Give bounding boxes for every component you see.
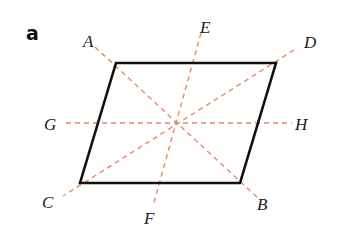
label-C: C	[42, 193, 54, 212]
label-D: D	[303, 33, 317, 52]
label-B: B	[257, 195, 268, 214]
line-EF	[153, 33, 201, 206]
label-H: H	[294, 115, 309, 134]
label-A: A	[82, 32, 94, 51]
label-F: F	[143, 209, 155, 228]
label-E: E	[199, 18, 211, 37]
parallelogram-diagram: AEDGHCFB	[0, 0, 339, 229]
label-G: G	[44, 115, 56, 134]
